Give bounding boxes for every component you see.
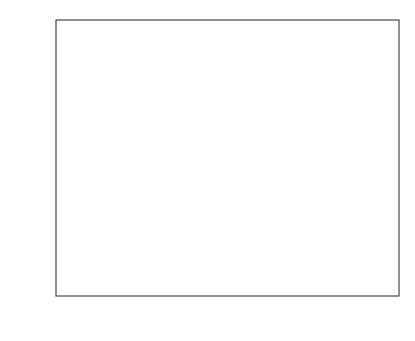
- ber-vs-rho-chart: [0, 0, 415, 341]
- plot-frame: [56, 20, 399, 296]
